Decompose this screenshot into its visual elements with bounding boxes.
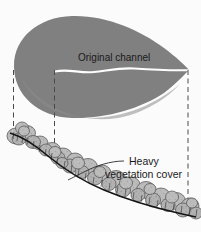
label-heavy-vegetation-line2: vegetation cover	[105, 168, 183, 180]
diagram-container: Original channel Heavy vegetation cover	[0, 0, 201, 232]
label-original-channel: Original channel	[78, 52, 150, 63]
label-heavy-vegetation-line1: Heavy	[129, 155, 160, 167]
diagram-canvas: Original channel Heavy vegetation cover	[0, 0, 201, 232]
